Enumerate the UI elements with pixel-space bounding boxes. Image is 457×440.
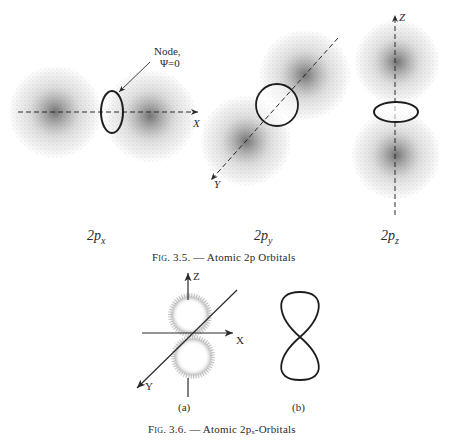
- figure-eight-3-6b: [281, 292, 319, 380]
- node-plane-2py: [256, 84, 298, 126]
- label-2pz: 2pz: [381, 228, 399, 246]
- label-2px: 2px: [87, 228, 105, 246]
- node-annotation: Node, Ψ=0: [154, 45, 181, 69]
- orbital-2pz: [352, 15, 440, 215]
- node-plane-2pz: [374, 102, 418, 122]
- z-axis-label-3-6: Z: [193, 270, 200, 282]
- caption-fig-3-6: Fig. 3.6. — Atomic 2pₓ-Orbitals: [148, 423, 296, 435]
- panel-label-b: (b): [292, 401, 305, 413]
- orbital-2py: [201, 30, 350, 186]
- y-axis-label-3-6: Y: [145, 380, 153, 392]
- label-2py: 2py: [254, 228, 272, 246]
- z-axis-label-2pz: Z: [399, 11, 405, 23]
- x-axis-label-2px: X: [193, 117, 200, 129]
- y-axis-label-2py: Y: [214, 178, 220, 190]
- figure-3-6a: [137, 273, 237, 397]
- node-annotation-line2: Ψ=0: [154, 57, 181, 69]
- figure-canvas: [0, 0, 457, 440]
- caption-fig-3-5: Fig. 3.5. — Atomic 2p Orbitals: [152, 251, 295, 263]
- orbital-2px: [9, 62, 198, 162]
- panel-label-a: (a): [178, 401, 190, 413]
- node-annotation-line1: Node,: [154, 45, 181, 57]
- x-axis-label-3-6: X: [236, 334, 244, 346]
